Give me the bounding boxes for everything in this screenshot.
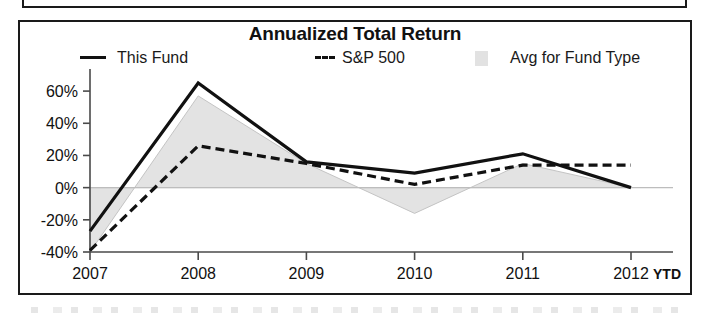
y-tick-label: 40% [46,115,78,132]
annualized-total-return-panel: Annualized Total Return This Fund S&P 50… [18,20,692,295]
y-tick-label: 20% [46,147,78,164]
x-tick-label: 2007 [72,265,108,282]
y-tick-labels: 60%40%20%0%-20%-40% [41,83,78,261]
x-tick-label: 2012 [613,265,649,282]
y-tick-label: -40% [41,244,78,261]
y-axis [83,69,90,252]
y-tick-label: -20% [41,212,78,229]
x-tick-label: 2010 [397,265,433,282]
ytd-note-label: YTD [653,266,681,282]
x-tick-labels: 200720082009201020112012 [72,265,649,282]
x-axis [90,252,673,260]
annualized-return-line-chart: 60%40%20%0%-20%-40% 20072008200920102011… [20,22,694,297]
scan-artifact-row [22,307,682,313]
y-tick-label: 60% [46,83,78,100]
preceding-panel-fragment [22,0,687,8]
plot-area: 60%40%20%0%-20%-40% 20072008200920102011… [20,22,694,297]
x-tick-label: 2009 [289,265,325,282]
x-tick-label: 2011 [506,265,541,282]
x-tick-label: 2008 [180,265,216,282]
y-tick-label: 0% [55,180,78,197]
